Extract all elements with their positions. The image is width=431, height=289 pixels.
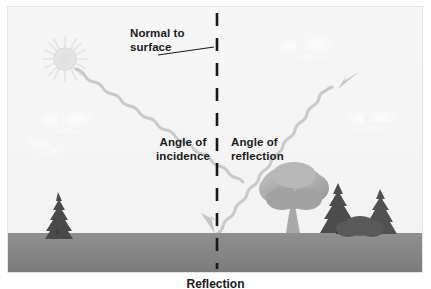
cloud-left-lower bbox=[18, 136, 78, 157]
cloud-left-upper bbox=[32, 110, 100, 136]
sun-icon bbox=[43, 37, 87, 81]
cloud-right-lower bbox=[338, 109, 402, 134]
cloud-right-upper bbox=[272, 34, 344, 63]
reflection-diagram-figure: Normal to surface Angle of incidence Ang… bbox=[0, 0, 431, 289]
label-normal-to-surface: Normal to surface bbox=[130, 27, 185, 54]
figure-caption: Reflection bbox=[0, 277, 431, 289]
reflected-ray-arrowhead bbox=[338, 71, 360, 89]
deciduous-tree-right bbox=[259, 162, 329, 233]
conifer-left bbox=[45, 192, 73, 239]
label-angle-of-reflection: Angle of reflection bbox=[231, 136, 284, 163]
diagram-graphics bbox=[8, 7, 423, 273]
incident-ray-arrowhead bbox=[201, 213, 217, 234]
diagram-scene: Normal to surface Angle of incidence Ang… bbox=[7, 6, 423, 273]
label-angle-of-incidence: Angle of incidence bbox=[156, 136, 210, 163]
